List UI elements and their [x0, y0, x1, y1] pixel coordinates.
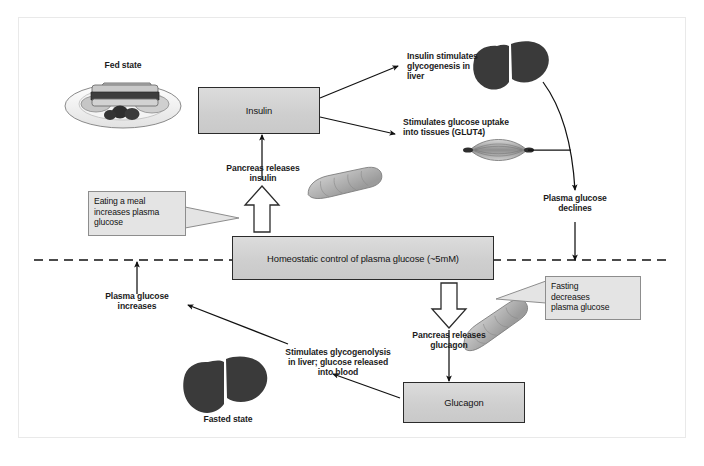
homeostatic-control-box[interactable]: Homeostatic control of plasma glucose (~…: [232, 236, 494, 280]
pancreas-releases-insulin-label: Pancreas releases insulin: [207, 164, 319, 184]
glycogenolysis-label: Stimulates glycogenolysis in liver; gluc…: [248, 348, 428, 378]
glycogenolysis-text-post: in liver; glucose released into blood: [288, 357, 388, 377]
arrow-insulin-glycogenesis: [320, 66, 398, 98]
fasting-callout: Fasting decreases plasma glucose: [545, 276, 641, 320]
glucose-homeostasis-figure: Fed state Fasted state Pancreas releases…: [0, 0, 704, 466]
callout-tail-fasting: [496, 281, 546, 303]
glucagon-box[interactable]: Glucagon: [403, 382, 525, 423]
insulin-box[interactable]: Insulin: [198, 87, 320, 134]
plasma-glucose-declines-label: Plasma glucose declines: [519, 194, 631, 214]
glycogenolysis-text-bold: glycogenolysis: [330, 347, 391, 357]
plate-of-food-icon: [65, 83, 181, 128]
fasting-line-2: decreases: [551, 292, 635, 303]
callout-tail-eating-meal: [185, 207, 239, 228]
eating-a-meal-line-2: increases plasma: [94, 207, 180, 218]
glucose-uptake-label: Stimulates glucose uptake into tissues (…: [403, 118, 545, 138]
block-arrow-down-glucagon: [432, 283, 466, 328]
eating-a-meal-line-3: glucose: [94, 217, 180, 228]
arrow-glycogenolysis-increases: [188, 305, 288, 344]
eating-a-meal-line-1: Eating a meal: [94, 196, 180, 207]
arrow-insulin-glut4: [320, 117, 395, 134]
fasted-state-label: Fasted state: [178, 415, 278, 425]
insulin-glycogenesis-label: Insulin stimulates glycogenesis in liver: [407, 52, 507, 82]
glycogenolysis-text-pre: Stimulates: [285, 347, 330, 357]
fed-state-label: Fed state: [73, 61, 173, 71]
arrow-liver-to-declines: [543, 82, 575, 190]
plasma-glucose-increases-label: Plasma glucose increases: [81, 292, 193, 312]
muscle-fiber-icon: [463, 140, 534, 161]
fasting-line-1: Fasting: [551, 281, 635, 292]
block-arrow-up-insulin: [245, 186, 279, 232]
eating-a-meal-callout: Eating a meal increases plasma glucose: [88, 191, 186, 236]
fasting-line-3: plasma glucose: [551, 302, 635, 313]
